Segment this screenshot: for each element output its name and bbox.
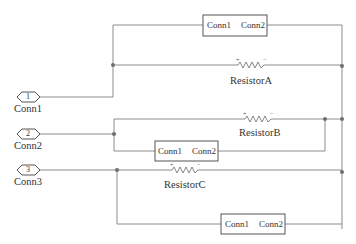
wire-conn2-loop <box>114 119 155 151</box>
block-middle-right-port: Conn2 <box>192 147 216 156</box>
junction-dot <box>115 168 119 172</box>
resistor-a-plus: + <box>236 57 239 63</box>
resistor-c-label: ResistorC <box>164 180 205 191</box>
junction-dot <box>340 117 344 121</box>
block-middle-left-port: Conn1 <box>158 147 182 156</box>
junction-dot <box>323 117 327 121</box>
port-label-conn2: Conn2 <box>14 141 42 152</box>
resistor-b-plus: + <box>243 111 246 117</box>
block-bottom-left-port: Conn1 <box>225 220 249 229</box>
resistor-c-plus: + <box>170 162 173 168</box>
wire-conn1 <box>40 25 203 97</box>
resistor-icon <box>245 116 271 122</box>
junction-dot <box>340 170 344 174</box>
port-number-3: 3 <box>23 166 33 174</box>
junction-dot <box>112 132 116 136</box>
resistor-b-minus: − <box>270 110 273 116</box>
resistor-a-minus: − <box>263 56 266 62</box>
resistor-c-minus: − <box>197 161 200 167</box>
resistor-icon <box>172 167 198 173</box>
schematic-canvas: 1 2 3 Conn1 Conn2 Conn3 Conn1 Conn2 Conn… <box>0 0 356 244</box>
resistor-b-label: ResistorB <box>239 128 280 139</box>
junction-dot <box>111 63 115 67</box>
junction-dot <box>340 64 344 68</box>
block-top-left-port: Conn1 <box>207 21 231 30</box>
port-number-1: 1 <box>23 93 33 101</box>
block-bottom-right-port: Conn2 <box>259 220 283 229</box>
port-label-conn1: Conn1 <box>14 104 42 115</box>
wires-layer <box>0 0 356 244</box>
block-top-right-port: Conn2 <box>241 21 265 30</box>
resistor-icon <box>238 62 264 68</box>
resistor-a-label: ResistorA <box>230 76 272 87</box>
port-number-2: 2 <box>23 130 33 138</box>
port-label-conn3: Conn3 <box>14 177 42 188</box>
